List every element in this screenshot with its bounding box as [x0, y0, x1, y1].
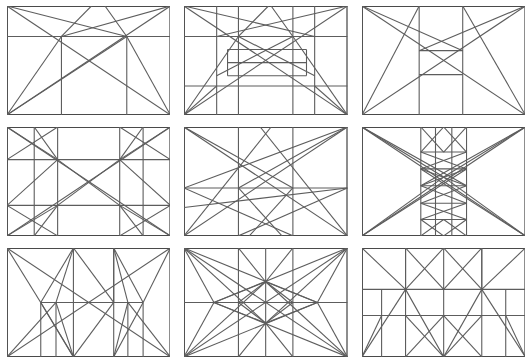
diagonal	[239, 248, 266, 282]
diagonal	[420, 169, 525, 236]
diagonal	[120, 160, 171, 206]
diagonal	[214, 302, 347, 356]
diagonal	[271, 6, 293, 36]
diagonal	[266, 248, 293, 282]
diagonal	[362, 169, 467, 236]
diagonal	[318, 248, 348, 302]
diagonal	[481, 289, 525, 357]
diagonal	[34, 127, 57, 160]
diagonal	[362, 289, 406, 357]
diagonal	[362, 6, 463, 51]
diagonal	[405, 289, 443, 357]
diagonal	[266, 248, 348, 323]
diagram-panel-2	[177, 0, 354, 121]
diagonal	[239, 6, 269, 36]
diagonal	[56, 302, 73, 356]
diagonal	[41, 248, 74, 302]
diagonal	[114, 248, 128, 302]
diagonal	[184, 248, 214, 302]
diagram-svg-7	[7, 248, 170, 357]
diagonal	[266, 323, 293, 357]
diagonal	[362, 127, 467, 186]
diagram-panel-8	[177, 242, 354, 361]
diagram-svg-6	[362, 127, 525, 236]
diagonal	[362, 315, 382, 356]
diagram-svg-1	[7, 6, 170, 115]
diagonal	[239, 36, 315, 75]
diagonal	[73, 248, 113, 302]
diagonal	[7, 160, 58, 206]
diagonal	[184, 6, 315, 36]
diagram-svg-4	[7, 127, 170, 236]
diagram-panel-4	[0, 121, 177, 242]
diagonal	[128, 302, 170, 356]
diagonal	[266, 282, 348, 357]
diagonal	[362, 248, 406, 289]
diagonal	[318, 302, 348, 356]
diagonal	[184, 127, 347, 188]
diagonal	[41, 302, 74, 356]
diagonal	[184, 127, 271, 236]
diagram-svg-8	[184, 248, 347, 357]
diagram-svg-9	[362, 248, 525, 357]
diagonal	[114, 302, 128, 356]
diagonal	[481, 248, 525, 289]
diagram-panel-5	[177, 121, 354, 242]
diagram-svg-2	[184, 6, 347, 115]
diagram-panel-6	[355, 121, 532, 242]
diagonal	[362, 6, 419, 115]
diagram-panel-1	[0, 0, 177, 121]
diagram-panel-9	[355, 242, 532, 361]
diagonal	[7, 36, 61, 114]
diagonal	[184, 282, 266, 357]
diagonal	[239, 323, 266, 357]
diagram-panel-3	[355, 0, 532, 121]
diagonal	[184, 302, 214, 356]
diagonal	[420, 127, 525, 186]
diagonal	[184, 302, 317, 356]
diagonal	[315, 86, 348, 115]
diagram-svg-5	[184, 127, 347, 236]
diagonal	[73, 302, 113, 356]
diagonal	[143, 248, 170, 302]
diagonal	[505, 315, 525, 356]
diagonal	[214, 248, 347, 302]
diagonal	[114, 248, 143, 302]
diagonal	[184, 248, 317, 302]
diagonal	[239, 188, 283, 236]
diagonal	[127, 36, 171, 114]
diagonal	[7, 248, 41, 302]
diagonal	[462, 6, 525, 115]
diagonal	[7, 36, 127, 114]
diagonal	[120, 127, 143, 160]
diagonal	[443, 289, 481, 357]
diagonal	[184, 248, 266, 323]
diagram-svg-3	[362, 6, 525, 115]
diagonal	[419, 6, 525, 51]
diagonal	[56, 248, 73, 302]
diagram-panel-7	[0, 242, 177, 361]
diagonal	[184, 86, 217, 115]
